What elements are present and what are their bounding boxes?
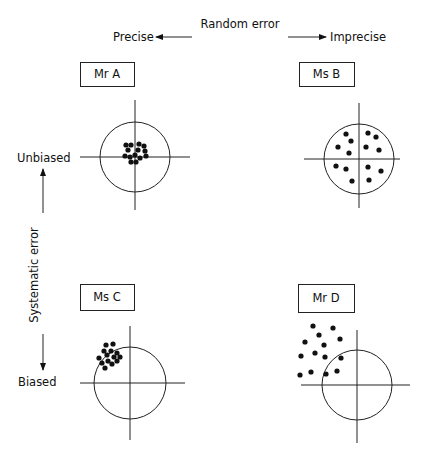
imprecise-label: Imprecise (330, 30, 386, 44)
shot-dot (366, 177, 371, 182)
shot-dot (363, 144, 368, 149)
shot-dot (312, 350, 317, 355)
shot-dot (343, 131, 348, 136)
shot-dot (302, 339, 307, 344)
shot-dot (136, 141, 141, 146)
shot-dot (128, 159, 133, 164)
shot-dot (335, 144, 340, 149)
shot-dot (125, 147, 130, 152)
shot-dot (330, 325, 335, 330)
shot-dot (135, 147, 140, 152)
shot-dot (297, 372, 302, 377)
panel-mr-a: Mr A (80, 63, 190, 211)
shot-dot (378, 168, 383, 173)
random-error-label: Random error (200, 17, 279, 31)
precise-label: Precise (113, 30, 154, 44)
shot-dots (297, 323, 343, 377)
shot-dot (321, 342, 326, 347)
shot-dot (96, 355, 101, 360)
shot-dot (117, 354, 122, 359)
shot-dot (128, 142, 133, 147)
shot-dot (365, 130, 370, 135)
shot-dot (373, 134, 378, 139)
shot-dot (122, 153, 127, 158)
shot-dot (141, 143, 146, 148)
shot-dot (348, 138, 353, 143)
unbiased-label: Unbiased (17, 151, 71, 165)
shot-dot (323, 371, 328, 376)
panel-ms-b: Ms B (300, 63, 401, 209)
panels: Mr AMs BMs CMr D (80, 63, 410, 444)
shot-dot (333, 163, 338, 168)
shot-dot (123, 142, 128, 147)
shot-dot (349, 178, 354, 183)
shot-dot (108, 348, 113, 353)
shot-dot (102, 365, 107, 370)
shot-dot (308, 369, 313, 374)
shot-dot (104, 352, 109, 357)
shot-dot (143, 153, 148, 158)
shot-dot (110, 341, 115, 346)
shot-dot (298, 353, 303, 358)
shot-dot (142, 148, 147, 153)
shot-dot (365, 164, 370, 169)
shot-dot (132, 152, 137, 157)
accuracy-precision-diagram: Random error Precise Imprecise Unbiased … (0, 0, 429, 458)
shot-dot (109, 361, 114, 366)
shot-dots (96, 341, 122, 370)
shot-dot (334, 368, 339, 373)
shot-dot (322, 354, 327, 359)
shot-dot (316, 332, 321, 337)
shot-dot (99, 360, 104, 365)
shot-dot (346, 150, 351, 155)
shot-dot (337, 336, 342, 341)
shot-dot (338, 355, 343, 360)
shot-dot (343, 166, 348, 171)
name-label: Mr D (312, 291, 339, 305)
panel-mr-d: Mr D (297, 285, 410, 444)
shot-dot (103, 342, 108, 347)
name-label: Ms C (93, 290, 121, 304)
shot-dot (310, 323, 315, 328)
shot-dot (127, 154, 132, 159)
panel-ms-c: Ms C (80, 285, 185, 441)
biased-label: Biased (18, 375, 57, 389)
name-label: Mr A (94, 67, 120, 81)
shot-dot (376, 147, 381, 152)
systematic-error-label: Systematic error (27, 227, 41, 323)
shot-dot (137, 155, 142, 160)
name-label: Ms B (313, 67, 341, 81)
shot-dot (133, 159, 138, 164)
